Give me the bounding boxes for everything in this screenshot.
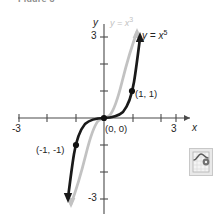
y-tick-label-pos3: 3	[91, 31, 97, 41]
point-label-origin: (0, 0)	[105, 124, 127, 134]
coordinate-plot	[0, 6, 218, 219]
x-tick-label-pos3: 3	[171, 124, 177, 134]
point-neg-one-marker	[73, 142, 79, 148]
axis-arrowheads	[184, 115, 190, 121]
x-tick-label-neg3: -3	[12, 124, 21, 134]
graphing-calculator-icon	[190, 149, 212, 175]
math-figure: -3 3 3 -3 x y (0, 0) (1, 1) (-1, -1) y =…	[0, 6, 218, 219]
x-axis-arrow	[184, 115, 190, 121]
point-label-one: (1, 1)	[135, 89, 157, 99]
figure-caption: Figure 3	[18, 0, 55, 2]
curve-label-x-cubed: y = x3	[110, 19, 133, 28]
curve-label-x-fifth: y = x5	[142, 31, 167, 41]
y-tick-label-neg3: -3	[88, 193, 97, 203]
y-axis-label: y	[93, 18, 98, 28]
graphing-calculator-badge[interactable]	[189, 148, 213, 176]
x-axis-label: x	[192, 123, 197, 133]
point-origin-marker	[101, 115, 107, 121]
point-label-neg-one: (-1, -1)	[36, 145, 65, 155]
